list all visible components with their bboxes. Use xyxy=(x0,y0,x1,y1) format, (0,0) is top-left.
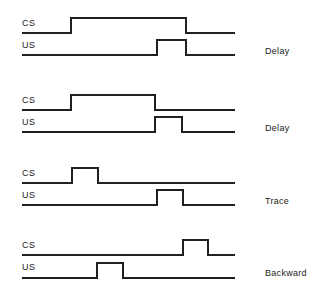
paradigm-name-backward: Backward xyxy=(265,269,307,278)
us-waveform-path xyxy=(22,263,235,278)
conditioning-paradigms-diagram: CSUSDelayCSUSDelayCSUSTraceCSUSBackward xyxy=(0,0,319,300)
us-waveform xyxy=(0,0,319,300)
